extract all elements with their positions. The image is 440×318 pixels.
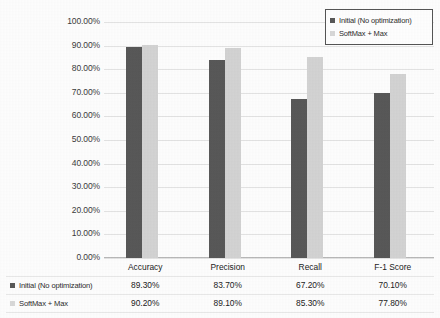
bar-f-1-score-softmax bbox=[390, 74, 406, 258]
bar-accuracy-initial bbox=[126, 47, 142, 258]
bar-recall-softmax bbox=[307, 57, 323, 258]
y-axis-tick-label: 20.00% bbox=[36, 205, 100, 215]
bar-group bbox=[352, 22, 435, 258]
table-header-row: AccuracyPrecisionRecallF-1 Score bbox=[0, 258, 440, 276]
marker-pair bbox=[104, 244, 187, 258]
category-label-f-1-score: F-1 Score bbox=[352, 258, 435, 276]
legend-item-softmax[interactable]: SoftMax + Max bbox=[330, 27, 428, 39]
table-cell-value: 89.10% bbox=[187, 294, 270, 312]
bar-group bbox=[104, 22, 187, 258]
bar-precision-initial bbox=[209, 60, 225, 258]
data-table: AccuracyPrecisionRecallF-1 ScoreInitial … bbox=[0, 258, 440, 318]
table-cell-value: 90.20% bbox=[104, 294, 187, 312]
marker-swatch bbox=[209, 244, 225, 258]
table-cell-value: 85.30% bbox=[269, 294, 352, 312]
table-cell-value: 83.70% bbox=[187, 276, 270, 294]
series-marker-strip bbox=[104, 244, 434, 258]
table-cell-value: 77.80% bbox=[352, 294, 435, 312]
table-row-key: Initial (No optimization) bbox=[10, 276, 92, 294]
table-row: SoftMax + Max90.20%89.10%85.30%77.80% bbox=[0, 294, 440, 312]
table-cell-value: 70.10% bbox=[352, 276, 435, 294]
table-row-label: Initial (No optimization) bbox=[19, 281, 92, 290]
table-row: Initial (No optimization)89.30%83.70%67.… bbox=[0, 276, 440, 294]
y-axis-tick-label: 10.00% bbox=[36, 228, 100, 238]
y-axis-tick-label: 90.00% bbox=[36, 40, 100, 50]
table-cell-value: 67.20% bbox=[269, 276, 352, 294]
marker-swatch bbox=[291, 244, 307, 258]
y-axis-tick-label: 40.00% bbox=[36, 158, 100, 168]
bar-group bbox=[269, 22, 352, 258]
category-label-accuracy: Accuracy bbox=[104, 258, 187, 276]
table-row-label: SoftMax + Max bbox=[19, 299, 68, 308]
marker-swatch bbox=[126, 244, 142, 258]
y-axis-tick-label: 50.00% bbox=[36, 134, 100, 144]
y-axis-tick-label: 100.00% bbox=[36, 16, 100, 26]
marker-swatch bbox=[225, 244, 241, 258]
y-axis-tick-label: 70.00% bbox=[36, 87, 100, 97]
chart-screenshot: 0.00%10.00%20.00%30.00%40.00%50.00%60.00… bbox=[0, 0, 440, 318]
bar-recall-initial bbox=[291, 99, 307, 258]
bar-group bbox=[187, 22, 270, 258]
category-label-precision: Precision bbox=[187, 258, 270, 276]
marker-pair bbox=[352, 244, 435, 258]
legend-swatch-icon-softmax bbox=[330, 31, 335, 36]
bar-f-1-score-initial bbox=[374, 93, 390, 258]
chart-legend: Initial (No optimization) SoftMax + Max bbox=[325, 9, 433, 45]
marker-swatch bbox=[374, 244, 390, 258]
legend-label-softmax: SoftMax + Max bbox=[339, 29, 387, 38]
table-cell-value: 89.30% bbox=[104, 276, 187, 294]
marker-swatch bbox=[390, 244, 406, 258]
bar-precision-softmax bbox=[225, 48, 241, 258]
marker-swatch bbox=[307, 244, 323, 258]
table-row-swatch-icon bbox=[10, 301, 15, 306]
y-axis-tick-label: 60.00% bbox=[36, 110, 100, 120]
legend-swatch-icon-initial bbox=[330, 18, 335, 23]
y-axis-tick-label: 80.00% bbox=[36, 63, 100, 73]
marker-pair bbox=[187, 244, 270, 258]
legend-item-initial[interactable]: Initial (No optimization) bbox=[330, 14, 428, 26]
marker-pair bbox=[269, 244, 352, 258]
table-row-swatch-icon bbox=[10, 283, 15, 288]
table-bottom-border bbox=[6, 312, 434, 313]
category-label-recall: Recall bbox=[269, 258, 352, 276]
bar-accuracy-softmax bbox=[142, 45, 158, 258]
plot-area bbox=[104, 22, 434, 258]
y-axis-tick-label: 30.00% bbox=[36, 181, 100, 191]
table-row-key: SoftMax + Max bbox=[10, 294, 68, 312]
legend-label-initial: Initial (No optimization) bbox=[339, 16, 412, 25]
marker-swatch bbox=[142, 244, 158, 258]
